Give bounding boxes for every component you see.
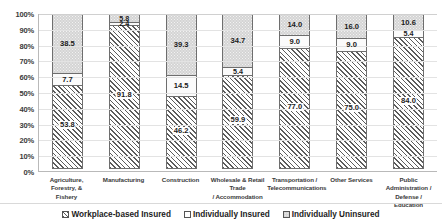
legend-item-individually-insured[interactable]: Individually Insured	[184, 210, 270, 219]
legend-item-individually-uninsured[interactable]: Individually Uninsured	[283, 210, 380, 219]
segment-value-label: 7.7	[61, 76, 74, 84]
x-axis-category-label: Public Administration /Defense / Educati…	[380, 176, 437, 202]
gridline	[39, 14, 437, 15]
segment-individually-uninsured[interactable]: 10.6	[393, 14, 424, 31]
legend-label: Individually Insured	[193, 210, 270, 219]
category-label-line: Other Services	[324, 176, 379, 184]
segment-value-label: 9.0	[289, 38, 302, 46]
segment-value-label: 14.5	[173, 82, 190, 90]
gridline	[39, 77, 437, 78]
plot-area: 38.57.753.853.85.82.491.891.839.314.546.…	[38, 14, 437, 172]
segment-value-label: 5.4	[402, 30, 414, 37]
gridline	[39, 30, 437, 31]
x-axis-category-label: Transportation /Telecommunications	[266, 176, 323, 202]
y-axis-tick-label: 60%	[20, 73, 34, 82]
category-label-line: Public Administration /	[381, 176, 436, 193]
y-axis-tick-label: 30%	[20, 120, 34, 129]
segment-value-label: 14.0	[286, 21, 303, 29]
x-axis-category-label: Other Services	[323, 176, 380, 202]
stipple-swatch-icon	[283, 211, 290, 218]
gridline	[39, 125, 437, 126]
x-axis-category-label: Wholesale & Retail Trade/ Accommodation	[209, 176, 266, 202]
segment-value-label: 10.6	[400, 19, 417, 27]
workplace-value-label: 53.8	[59, 121, 76, 129]
y-axis-tick-label: 90%	[20, 25, 34, 34]
x-axis-category-label: Construction	[152, 176, 209, 202]
workplace-value-label: 91.8	[116, 91, 133, 99]
y-axis-tick-label: 80%	[20, 41, 34, 50]
y-axis-tick-label: 10%	[20, 152, 34, 161]
segment-value-label: 34.7	[230, 37, 247, 45]
stacked-bar-chart: 100%90%80%70%60%50%40%30%20%10%0% 38.57.…	[0, 0, 442, 223]
category-label-line: Telecommunications	[267, 184, 322, 192]
segment-individually-uninsured[interactable]: 38.5	[52, 14, 83, 74]
y-axis-tick-label: 40%	[20, 104, 34, 113]
legend-item-workplace-based-insured[interactable]: Workplace-based Insured	[62, 210, 171, 219]
white-swatch-icon	[184, 211, 191, 218]
segment-value-label: 39.3	[173, 41, 190, 49]
segment-individually-insured[interactable]: 9.0	[279, 35, 310, 49]
category-label-line: Manufacturing	[96, 176, 151, 184]
segment-value-label: 38.5	[59, 40, 76, 48]
y-axis-tick-label: 50%	[20, 89, 34, 98]
segment-value-label: 2.4	[118, 20, 130, 27]
gridline	[39, 109, 437, 110]
legend-label: Individually Uninsured	[292, 210, 380, 219]
category-label-line: Agriculture, Forestry, &	[39, 176, 94, 193]
y-axis: 100%90%80%70%60%50%40%30%20%10%0%	[0, 14, 36, 172]
category-label-line: Transportation /	[267, 176, 322, 184]
gridline	[39, 93, 437, 94]
segment-value-label: 9.0	[345, 41, 358, 49]
gridline	[39, 61, 437, 62]
y-axis-tick-label: 20%	[20, 136, 34, 145]
segment-individually-uninsured[interactable]: 14.0	[279, 14, 310, 36]
y-axis-tick-label: 0%	[24, 168, 34, 177]
x-axis-category-label: Agriculture, Forestry, &Fishery	[38, 176, 95, 202]
workplace-value-label: 46.2	[173, 127, 190, 135]
workplace-value-label: 84.0	[400, 97, 417, 105]
segment-value-label: 16.0	[343, 23, 360, 31]
workplace-value-label: 77.0	[286, 103, 303, 111]
hatch-swatch-icon	[62, 211, 69, 218]
x-axis-categories: Agriculture, Forestry, &FisheryManufactu…	[38, 176, 437, 202]
gridline	[39, 140, 437, 141]
workplace-value-label: 75.0	[343, 104, 360, 112]
chart-legend: Workplace-based InsuredIndividually Insu…	[0, 203, 442, 223]
y-axis-tick-label: 70%	[20, 57, 34, 66]
category-label-line: Fishery	[39, 193, 94, 201]
gridline	[39, 156, 437, 157]
category-label-line: Construction	[153, 176, 208, 184]
segment-individually-uninsured[interactable]: 16.0	[336, 14, 367, 39]
category-label-line: Wholesale & Retail Trade	[210, 176, 265, 193]
plot-wrapper: 100%90%80%70%60%50%40%30%20%10%0% 38.57.…	[0, 0, 442, 185]
workplace-value-label: 59.9	[230, 116, 247, 124]
segment-value-label: 5.4	[232, 68, 244, 75]
gridline	[39, 46, 437, 47]
legend-label: Workplace-based Insured	[71, 210, 171, 219]
y-axis-tick-label: 100%	[16, 10, 34, 19]
x-axis-category-label: Manufacturing	[95, 176, 152, 202]
segment-individually-uninsured[interactable]: 34.7	[222, 14, 253, 68]
category-label-line: / Accommodation	[210, 193, 265, 201]
